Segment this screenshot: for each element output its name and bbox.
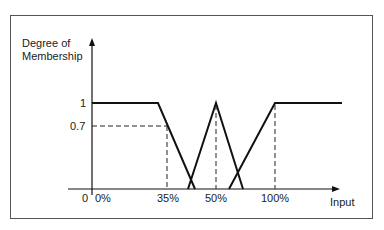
y-axis-label-line2: Membership xyxy=(22,50,83,62)
x-tick-50: 50% xyxy=(205,192,227,204)
x-axis-label: Input xyxy=(330,196,354,208)
y-tick-0.7: 0.7 xyxy=(70,120,85,132)
x-tick-100: 100% xyxy=(261,192,289,204)
y-axis-label-line1: Degree of xyxy=(22,37,70,49)
high-membership-curve xyxy=(229,103,342,189)
membership-chart xyxy=(0,0,384,230)
x-axis-arrow-icon xyxy=(332,186,340,192)
y-axis-arrow-icon xyxy=(89,38,95,46)
y-tick-0: 0 xyxy=(82,192,88,204)
y-tick-1: 1 xyxy=(80,97,86,109)
x-tick-0: 0% xyxy=(95,192,111,204)
low-membership-curve xyxy=(92,103,195,189)
x-tick-35: 35% xyxy=(157,192,179,204)
